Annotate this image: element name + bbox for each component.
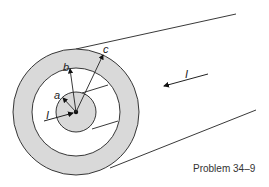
figure-caption: Problem 34–9: [193, 163, 255, 174]
label-c: c: [103, 43, 109, 55]
label-current-back: I: [185, 68, 188, 80]
label-a: a: [54, 89, 60, 101]
label-b: b: [63, 61, 69, 73]
label-current-front: I: [46, 109, 49, 121]
coaxial-cable-diagram: a b c I I: [0, 0, 269, 187]
cylinder-top-edge: [76, 14, 236, 49]
